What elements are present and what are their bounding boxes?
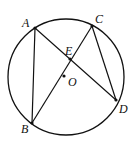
segment-bc — [32, 26, 92, 123]
point-c — [90, 24, 93, 27]
geometry-diagram: A B C D E O — [0, 0, 136, 143]
circle-o — [8, 19, 124, 135]
point-a — [33, 26, 36, 29]
label-a: A — [21, 16, 30, 30]
point-o — [62, 74, 65, 77]
label-o: O — [68, 75, 77, 89]
label-b: B — [21, 122, 29, 136]
segment-ab — [32, 28, 35, 123]
point-b — [30, 121, 33, 124]
label-e: E — [64, 44, 73, 58]
point-d — [114, 98, 117, 101]
label-c: C — [95, 12, 104, 26]
label-d: D — [118, 102, 128, 116]
